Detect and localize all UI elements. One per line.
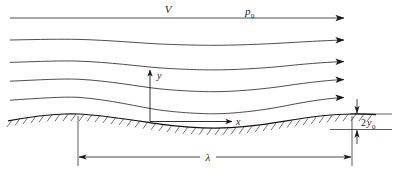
amplitude-prefix: 2 (361, 117, 366, 128)
y-axis-label: y (156, 70, 162, 81)
streamline-5 (10, 97, 344, 114)
wavelength-dimension (78, 116, 352, 166)
wavelength-label: λ (205, 151, 211, 163)
amplitude-subscript: 0 (372, 123, 376, 131)
flow-over-wavy-wall-figure: V p 0 y x λ 2 y 0 (0, 0, 397, 173)
wall-group (7, 114, 376, 135)
streamline-group (10, 18, 344, 114)
amplitude-label: 2 y 0 (361, 117, 376, 131)
diagram-canvas: V p 0 y x λ 2 y 0 (0, 0, 397, 173)
velocity-label: V (165, 3, 173, 15)
pressure-subscript: 0 (251, 12, 255, 20)
streamline-2 (10, 39, 344, 45)
x-axis-label: x (235, 116, 241, 127)
streamline-3 (10, 61, 344, 70)
streamline-4 (10, 79, 344, 92)
wall-hatching (7, 114, 372, 135)
svg-text:p: p (244, 5, 251, 17)
